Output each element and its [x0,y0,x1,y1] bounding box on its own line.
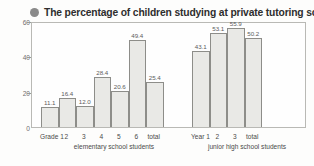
y-axis-tick-label: 0 [14,125,30,132]
bar[interactable] [129,40,147,127]
x-axis-tick-label: 5 [110,133,128,140]
x-axis-tick-label: 6 [128,133,146,140]
page-title: The percentage of children studying at p… [44,7,314,18]
filled-circle-bullet-icon [30,8,39,17]
bar[interactable] [245,38,263,127]
x-axis-tick-label: total [244,133,262,140]
x-axis-tick-label: 4 [93,133,111,140]
x-axis-tick-label: 3 [75,133,93,140]
x-axis-tick-label: 3 [226,133,244,140]
bar-slot: 28.4 [94,21,112,127]
group-caption-elementary: elementary school students [40,143,188,150]
bar-group-elementary: 11.116.412.028.420.649.425.4 [41,21,164,127]
bar[interactable] [76,106,94,127]
x-axis-tick-label: 2 [58,133,76,140]
plot-area: 11.116.412.028.420.649.425.4 43.153.155.… [31,22,306,128]
y-axis: 0204060 [8,22,30,128]
bar[interactable] [227,28,245,127]
bar-value-label: 50.2 [236,30,270,37]
x-axis-tick-label: Grade 1 [40,133,58,140]
bar-slot: 25.4 [146,21,164,127]
bar-slot: 43.1 [192,21,210,127]
x-axis-labels-elementary: Grade 123456total [40,130,163,142]
bar-slot: 16.4 [59,21,77,127]
bar[interactable] [111,91,129,127]
bar-slot: 11.1 [41,21,59,127]
chart-title-row: The percentage of children studying at p… [30,4,312,20]
bar[interactable] [41,107,59,127]
x-axis-tick-label: Year 1 [191,133,209,140]
bar-slot: 50.2 [245,21,263,127]
bar[interactable] [192,51,210,127]
bar[interactable] [210,33,228,127]
bar-value-label: 25.4 [138,74,172,81]
bar-slot: 53.1 [210,21,228,127]
x-axis-tick-label: 2 [209,133,227,140]
bar[interactable] [146,82,164,127]
bar-group-junior: 43.153.155.950.2 [192,21,262,127]
group-caption-junior: junior high school students [191,143,303,150]
x-axis-tick-label: total [145,133,163,140]
chart-page: The percentage of children studying at p… [0,0,314,166]
x-axis-labels-junior: Year 123total [191,130,261,142]
